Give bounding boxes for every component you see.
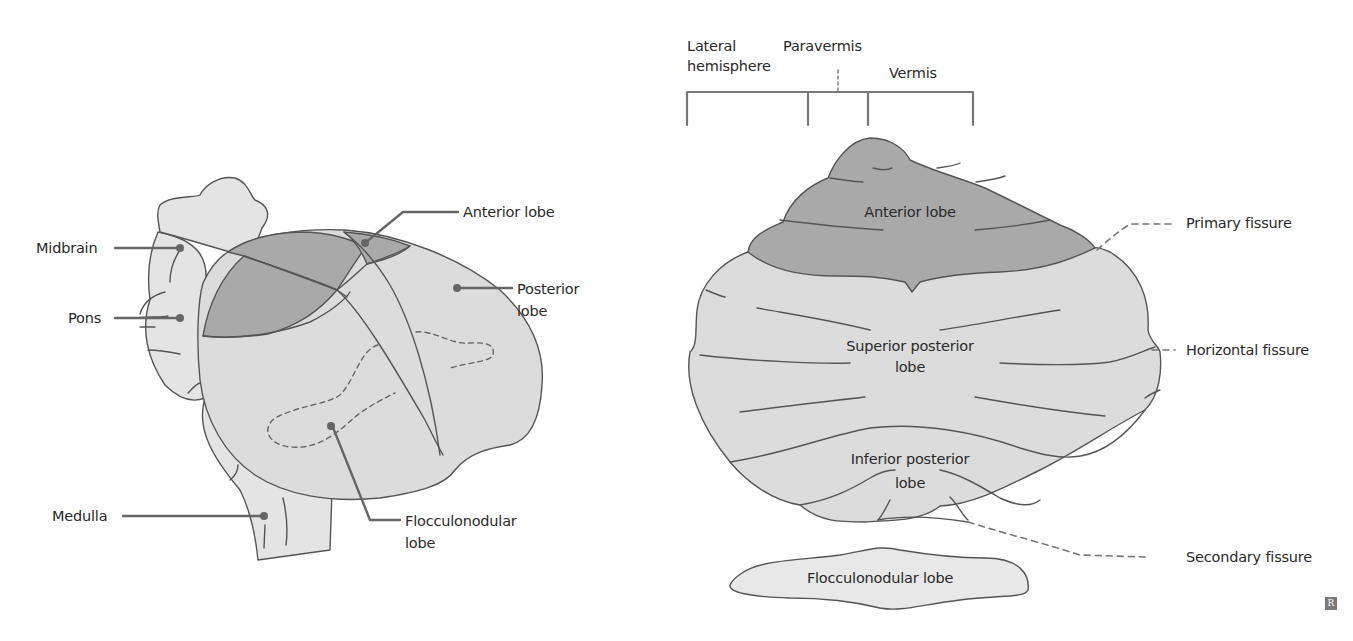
label-anterior-lobe-left: Anterior lobe	[463, 203, 555, 222]
label-posterior-lobe-line2: lobe	[517, 302, 547, 321]
label-inferior-posterior-line2: lobe	[820, 474, 1000, 493]
label-medulla: Medulla	[52, 507, 107, 526]
label-vermis: Vermis	[889, 64, 937, 83]
label-horizontal-fissure: Horizontal fissure	[1186, 341, 1309, 360]
label-midbrain: Midbrain	[36, 239, 97, 258]
zone-bracket	[687, 92, 973, 125]
primary-fissure-leader	[1097, 224, 1175, 250]
label-anterior-lobe-right: Anterior lobe	[820, 203, 1000, 222]
left-lateral-view	[115, 177, 542, 560]
cerebellum-diagram: Midbrain Pons Medulla Anterior lobe Post…	[0, 0, 1353, 641]
label-flocculonodular-right: Flocculonodular lobe	[790, 569, 970, 588]
label-secondary-fissure: Secondary fissure	[1186, 548, 1312, 567]
label-primary-fissure: Primary fissure	[1186, 214, 1292, 233]
secondary-fissure-leader	[968, 522, 1145, 557]
label-lateral-line2: hemisphere	[687, 57, 771, 76]
label-paravermis: Paravermis	[783, 37, 862, 56]
label-flocculonodular-line1: Flocculonodular	[405, 512, 517, 531]
label-lateral-line1: Lateral	[687, 37, 736, 56]
label-pons: Pons	[68, 309, 101, 328]
diagram-graphics	[0, 0, 1353, 641]
rx-watermark-icon: R	[1325, 597, 1337, 610]
label-posterior-lobe-line1: Posterior	[517, 280, 579, 299]
label-superior-posterior-line2: lobe	[820, 358, 1000, 377]
label-flocculonodular-line2: lobe	[405, 534, 435, 553]
label-inferior-posterior-line1: Inferior posterior	[820, 450, 1000, 469]
label-superior-posterior-line1: Superior posterior	[820, 337, 1000, 356]
